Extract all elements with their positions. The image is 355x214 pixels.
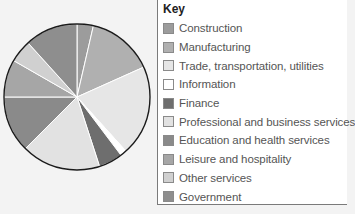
legend-item-education: Education and health services — [163, 131, 347, 150]
swatch-other-services — [163, 172, 174, 183]
legend-label: Government — [179, 191, 241, 203]
swatch-professional — [163, 116, 174, 127]
legend-label: Trade, transportation, utilities — [179, 60, 324, 72]
legend-item-government: Government — [163, 187, 347, 206]
swatch-leisure — [163, 154, 174, 165]
legend-item-leisure: Leisure and hospitality — [163, 150, 347, 169]
legend-label: Finance — [179, 97, 219, 109]
swatch-information — [163, 79, 174, 90]
legend: Key Construction Manufacturing Trade, tr… — [157, 0, 347, 205]
legend-items: Construction Manufacturing Trade, transp… — [163, 19, 347, 206]
legend-item-finance: Finance — [163, 94, 347, 113]
legend-item-manufacturing: Manufacturing — [163, 38, 347, 57]
legend-item-information: Information — [163, 75, 347, 94]
legend-label: Other services — [179, 172, 252, 184]
legend-label: Professional and business services — [179, 116, 355, 128]
legend-label: Leisure and hospitality — [179, 153, 291, 165]
legend-item-trade: Trade, transportation, utilities — [163, 56, 347, 75]
swatch-manufacturing — [163, 42, 174, 53]
swatch-finance — [163, 98, 174, 109]
swatch-government — [163, 191, 174, 202]
pie-slices — [4, 24, 150, 170]
legend-label: Education and health services — [179, 134, 330, 146]
legend-item-professional: Professional and business services — [163, 112, 347, 131]
legend-label: Manufacturing — [179, 41, 251, 53]
swatch-trade — [163, 60, 174, 71]
legend-item-construction: Construction — [163, 19, 347, 38]
pie-chart — [0, 0, 160, 214]
legend-label: Construction — [179, 22, 242, 34]
swatch-education — [163, 135, 174, 146]
swatch-construction — [163, 23, 174, 34]
legend-item-other-services: Other services — [163, 169, 347, 188]
legend-label: Information — [179, 78, 235, 90]
legend-title: Key — [163, 2, 347, 17]
